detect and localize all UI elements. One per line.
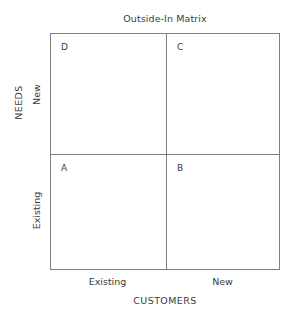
chart-title: Outside-In Matrix <box>50 13 280 24</box>
quadrant-label-b: B <box>177 164 183 173</box>
quadrant-bottom-left[interactable]: A <box>51 155 166 271</box>
y-axis-tick-existing: Existing <box>31 156 42 266</box>
x-axis-title: CUSTOMERS <box>50 295 280 306</box>
y-axis-title: NEEDS <box>13 48 24 158</box>
matrix-plot-area: D C A B <box>50 33 280 270</box>
x-axis-tick-new: New <box>165 276 280 287</box>
y-axis-tick-new: New <box>31 40 42 150</box>
outside-in-matrix-figure: Outside-In Matrix D C A B NEEDS New Exis… <box>0 0 298 322</box>
quadrant-bottom-right[interactable]: B <box>167 155 281 271</box>
x-axis-tick-existing: Existing <box>50 276 165 287</box>
quadrant-top-left[interactable]: D <box>51 34 166 154</box>
quadrant-top-right[interactable]: C <box>167 34 281 154</box>
quadrant-label-c: C <box>177 43 183 52</box>
quadrant-label-d: D <box>61 43 68 52</box>
quadrant-label-a: A <box>61 164 67 173</box>
